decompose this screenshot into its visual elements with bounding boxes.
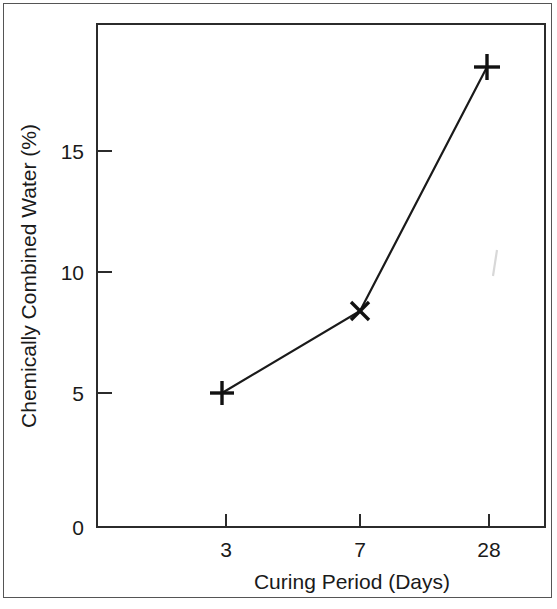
y-tick-label-10: 10 (61, 261, 84, 284)
data-point-marker-28days (474, 54, 500, 80)
x-tick-label-3: 3 (220, 538, 232, 561)
y-axis-title: Chemically Combined Water (%) (17, 124, 40, 428)
data-point-marker-7days (351, 302, 369, 320)
y-axis-ticks (97, 151, 112, 393)
plot-frame (97, 24, 545, 527)
y-tick-label-15: 15 (61, 140, 84, 163)
y-tick-label-5: 5 (72, 382, 84, 405)
x-axis-title: Curing Period (Days) (254, 570, 450, 593)
scan-artifact-mark (493, 250, 497, 276)
data-series-line (222, 67, 487, 393)
chart-figure: 15 10 5 0 3 7 28 Chemically Combined Wat… (0, 0, 557, 609)
y-tick-label-0: 0 (72, 516, 84, 539)
data-point-marker-3days (210, 381, 234, 405)
x-axis-ticks (226, 514, 489, 527)
line-chart: 15 10 5 0 3 7 28 Chemically Combined Wat… (0, 0, 557, 609)
x-tick-label-7: 7 (354, 538, 366, 561)
x-tick-label-28: 28 (477, 538, 500, 561)
